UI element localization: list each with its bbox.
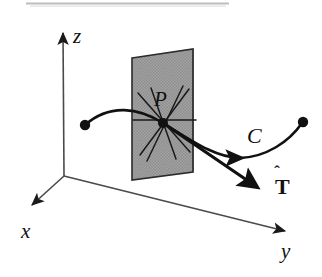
tangent-plane	[132, 49, 193, 180]
curve-label-c: C	[247, 123, 262, 148]
point-label-p: P	[153, 87, 167, 111]
axis-z-line	[63, 33, 64, 176]
diagram-canvas: z x y P C ̂ T	[0, 0, 322, 277]
point-p-dot	[158, 118, 168, 128]
axis-x-line	[32, 176, 64, 205]
curve-start-dot	[80, 120, 90, 130]
vector-calculus-diagram: z x y P C ̂ T	[0, 0, 322, 277]
curve-c-group	[80, 110, 308, 158]
tangent-plane-group	[132, 49, 193, 180]
axis-label-y: y	[279, 239, 291, 263]
curve-end-dot	[298, 117, 308, 127]
axis-label-z: z	[72, 24, 81, 48]
axis-label-x: x	[20, 219, 31, 243]
tangent-vector-label-t: T	[275, 174, 290, 199]
